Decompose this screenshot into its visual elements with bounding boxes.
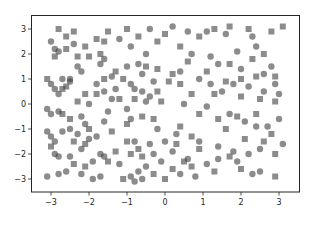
circle-marker — [135, 168, 141, 174]
circle-marker — [223, 31, 229, 37]
circle-marker — [257, 146, 263, 152]
circle-marker — [162, 138, 168, 144]
square-marker — [94, 36, 100, 42]
circle-marker — [124, 106, 130, 112]
square-marker — [97, 51, 103, 57]
square-marker — [189, 164, 195, 170]
circle-marker — [131, 178, 137, 184]
square-marker — [158, 99, 164, 105]
square-marker — [196, 111, 202, 117]
x-tick-label: 3 — [276, 198, 281, 207]
circle-marker — [268, 63, 274, 69]
square-marker — [257, 96, 263, 102]
circle-marker — [71, 41, 77, 47]
circle-marker — [116, 36, 122, 42]
square-marker — [238, 166, 244, 172]
circle-marker — [242, 118, 248, 124]
circle-marker — [63, 168, 69, 174]
square-marker — [113, 69, 119, 75]
square-marker — [246, 26, 252, 32]
circle-marker — [177, 171, 183, 177]
square-marker — [71, 161, 77, 167]
square-marker — [86, 54, 92, 60]
square-marker — [82, 164, 88, 170]
circle-marker — [253, 43, 259, 49]
square-marker — [238, 76, 244, 82]
circle-marker — [59, 76, 65, 82]
square-marker — [109, 129, 115, 135]
circle-marker — [143, 163, 149, 169]
circle-marker — [158, 158, 164, 164]
circle-marker — [55, 171, 61, 177]
square-marker — [162, 176, 168, 182]
circle-marker — [44, 173, 50, 179]
circle-marker — [234, 48, 240, 54]
circle-marker — [128, 43, 134, 49]
square-marker — [135, 146, 141, 152]
square-marker — [139, 154, 145, 160]
circle-marker — [147, 141, 153, 147]
circle-marker — [135, 61, 141, 67]
circle-marker — [131, 138, 137, 144]
square-marker — [44, 76, 50, 82]
square-marker — [162, 31, 168, 37]
square-marker — [135, 34, 141, 40]
circle-marker — [90, 176, 96, 182]
square-marker — [63, 34, 69, 40]
square-marker — [151, 116, 157, 122]
square-marker — [204, 69, 210, 75]
circle-marker — [276, 91, 282, 97]
square-marker — [189, 91, 195, 97]
square-marker — [124, 121, 130, 127]
square-marker — [280, 24, 286, 30]
square-marker — [177, 124, 183, 130]
circle-marker — [253, 123, 259, 129]
square-marker — [272, 99, 278, 105]
square-marker — [253, 111, 259, 117]
y-tick-label: −1 — [14, 125, 26, 134]
square-marker — [67, 116, 73, 122]
x-tick-label: −2 — [83, 198, 95, 207]
circle-marker — [234, 158, 240, 164]
circle-marker — [181, 101, 187, 107]
circle-marker — [196, 138, 202, 144]
square-marker — [272, 74, 278, 80]
circle-marker — [238, 66, 244, 72]
square-marker — [185, 59, 191, 65]
square-marker — [132, 96, 138, 102]
circle-marker — [67, 76, 73, 82]
square-marker — [249, 56, 255, 62]
circle-marker — [204, 28, 210, 34]
square-marker — [272, 151, 278, 157]
square-marker — [116, 96, 122, 102]
circle-marker — [204, 103, 210, 109]
square-marker — [170, 71, 176, 77]
square-marker — [82, 91, 88, 97]
circle-marker — [55, 153, 61, 159]
circle-marker — [67, 153, 73, 159]
circle-marker — [177, 68, 183, 74]
circle-marker — [48, 38, 54, 44]
circle-marker — [116, 161, 122, 167]
square-marker — [177, 81, 183, 87]
circle-marker — [143, 51, 149, 57]
circle-marker — [188, 51, 194, 57]
circle-marker — [215, 156, 221, 162]
square-marker — [105, 159, 111, 165]
square-marker — [261, 139, 267, 145]
square-marker — [166, 79, 172, 85]
square-marker — [63, 46, 69, 52]
square-marker — [101, 76, 107, 82]
circle-marker — [112, 86, 118, 92]
circle-marker — [264, 123, 270, 129]
square-marker — [94, 91, 100, 97]
circle-marker — [257, 168, 263, 174]
square-marker — [59, 111, 65, 117]
square-marker — [268, 29, 274, 35]
circle-marker — [249, 171, 255, 177]
square-marker — [211, 169, 217, 175]
square-marker — [56, 26, 62, 32]
circle-marker — [86, 101, 92, 107]
y-tick-label: 0 — [21, 100, 26, 109]
square-marker — [215, 116, 221, 122]
